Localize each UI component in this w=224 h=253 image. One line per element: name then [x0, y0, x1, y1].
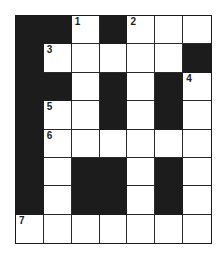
clue-number: 3: [47, 45, 53, 55]
crossword-cell[interactable]: [183, 16, 211, 44]
crossword-cell[interactable]: [183, 186, 211, 214]
crossword-block: [44, 73, 72, 101]
crossword-cell[interactable]: 7: [16, 215, 44, 243]
crossword-grid: 1234567: [15, 15, 212, 244]
crossword-cell[interactable]: 6: [44, 130, 72, 158]
crossword-cell[interactable]: [44, 215, 72, 243]
crossword-cell[interactable]: [183, 158, 211, 186]
crossword-cell[interactable]: [100, 215, 128, 243]
crossword-cell[interactable]: [72, 130, 100, 158]
crossword-cell[interactable]: [100, 130, 128, 158]
crossword-block: [16, 73, 44, 101]
crossword-cell[interactable]: [155, 16, 183, 44]
clue-number: 6: [47, 131, 53, 141]
crossword-block: [100, 101, 128, 129]
crossword-cell[interactable]: [155, 215, 183, 243]
crossword-block: [100, 186, 128, 214]
crossword-cell[interactable]: [127, 101, 155, 129]
crossword-cell[interactable]: [44, 186, 72, 214]
crossword-block: [16, 16, 44, 44]
crossword-cell[interactable]: [72, 73, 100, 101]
crossword-block: [16, 101, 44, 129]
crossword-block: [16, 130, 44, 158]
crossword-cell[interactable]: [72, 215, 100, 243]
crossword-block: [183, 44, 211, 72]
crossword-cell[interactable]: 1: [72, 16, 100, 44]
crossword-cell[interactable]: [72, 44, 100, 72]
crossword-cell[interactable]: [100, 44, 128, 72]
crossword-cell[interactable]: 5: [44, 101, 72, 129]
crossword-cell[interactable]: 3: [44, 44, 72, 72]
crossword-cell[interactable]: 4: [183, 73, 211, 101]
crossword-cell[interactable]: 2: [127, 16, 155, 44]
crossword-block: [155, 73, 183, 101]
crossword-cell[interactable]: [127, 186, 155, 214]
crossword-cell[interactable]: [127, 158, 155, 186]
crossword-cell[interactable]: [127, 73, 155, 101]
crossword-cell[interactable]: [155, 44, 183, 72]
crossword-block: [155, 158, 183, 186]
crossword-cell[interactable]: [72, 101, 100, 129]
crossword-block: [100, 158, 128, 186]
crossword-block: [155, 186, 183, 214]
clue-number: 5: [47, 102, 53, 112]
crossword-block: [72, 158, 100, 186]
crossword-block: [16, 158, 44, 186]
crossword-block: [100, 73, 128, 101]
crossword-block: [16, 186, 44, 214]
crossword-block: [72, 186, 100, 214]
crossword-cell[interactable]: [183, 215, 211, 243]
crossword-block: [16, 44, 44, 72]
crossword-cell[interactable]: [127, 215, 155, 243]
crossword-cell[interactable]: [183, 130, 211, 158]
clue-number: 4: [186, 74, 192, 84]
crossword-block: [44, 16, 72, 44]
crossword-cell[interactable]: [183, 101, 211, 129]
clue-number: 2: [130, 17, 136, 27]
crossword-cell[interactable]: [44, 158, 72, 186]
clue-number: 7: [19, 216, 25, 226]
crossword-block: [155, 101, 183, 129]
crossword-block: [100, 16, 128, 44]
crossword-cell[interactable]: [155, 130, 183, 158]
crossword-cell[interactable]: [127, 130, 155, 158]
crossword-cell[interactable]: [127, 44, 155, 72]
clue-number: 1: [75, 17, 81, 27]
